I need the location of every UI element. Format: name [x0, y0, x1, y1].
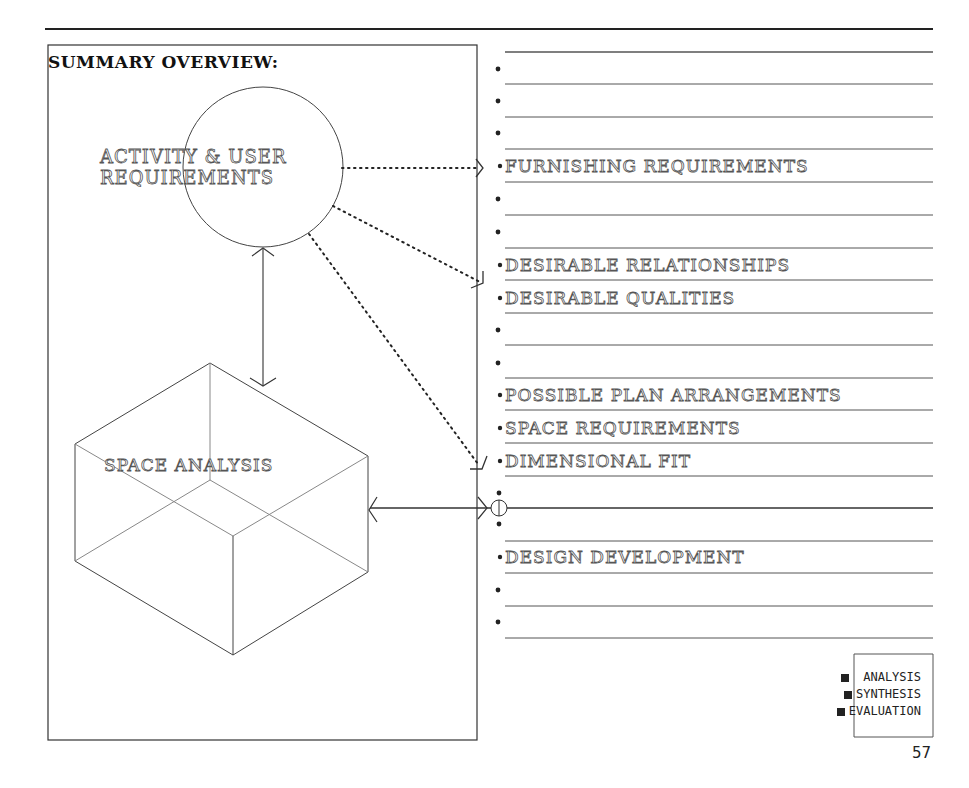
legend-label: ANALYSIS: [863, 669, 921, 686]
checklist-item-desirable-qualities: DESIRABLE QUALITIES: [505, 288, 735, 308]
decision-point-icon: [491, 500, 507, 516]
checklist-item-possible-plan-arrangements: POSSIBLE PLAN ARRANGEMENTS: [505, 385, 842, 405]
legend-item-synthesis: SYNTHESIS: [815, 686, 921, 703]
page-title: SUMMARY OVERVIEW:: [48, 52, 279, 72]
legend-label: SYNTHESIS: [856, 686, 921, 703]
arrowhead-icons: [470, 159, 487, 469]
dotted-connectors: [309, 168, 480, 464]
checklist-item-furnishing-requirements: FURNISHING REQUIREMENTS: [505, 156, 809, 176]
bullets: [496, 67, 503, 625]
legend-square-icon: [841, 674, 849, 682]
legend: ANALYSIS SYNTHESIS EVALUATION: [815, 669, 921, 720]
space-analysis-label: SPACE ANALYSIS: [104, 455, 273, 475]
activity-label-line2: REQUIREMENTS: [100, 167, 287, 188]
space-analysis-box: [75, 363, 368, 655]
activity-label-line1: ACTIVITY & USER: [100, 146, 287, 167]
activity-requirements-label: ACTIVITY & USER REQUIREMENTS: [100, 146, 287, 188]
horizontal-double-arrow: [369, 497, 487, 522]
legend-label: EVALUATION: [849, 703, 921, 720]
checklist-item-space-requirements: SPACE REQUIREMENTS: [505, 418, 741, 438]
checklist-item-desirable-relationships: DESIRABLE RELATIONSHIPS: [505, 255, 790, 275]
vertical-double-arrow: [250, 248, 276, 386]
checklist-item-dimensional-fit: DIMENSIONAL FIT: [505, 451, 691, 471]
checklist-item-design-development: DESIGN DEVELOPMENT: [505, 547, 745, 567]
legend-square-icon: [844, 691, 852, 699]
legend-item-evaluation: EVALUATION: [815, 703, 921, 720]
page-number: 57: [912, 744, 931, 762]
legend-item-analysis: ANALYSIS: [815, 669, 921, 686]
legend-square-icon: [837, 708, 845, 716]
